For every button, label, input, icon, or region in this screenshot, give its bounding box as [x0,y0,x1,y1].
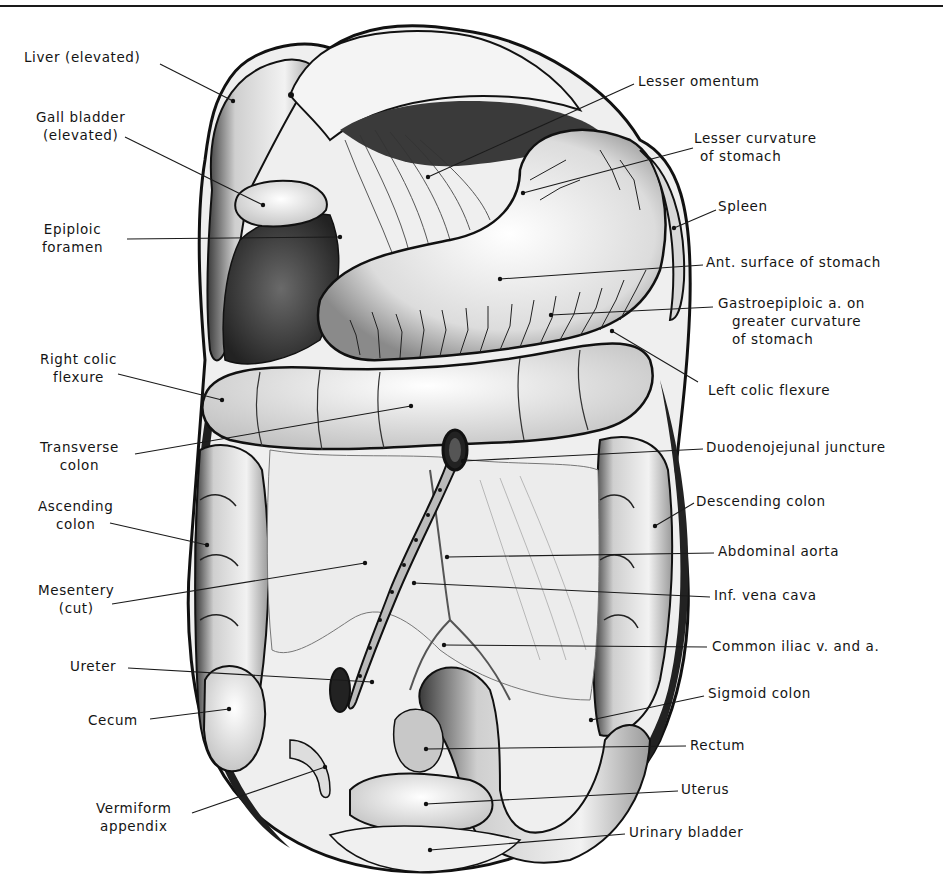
leader-dot-transverse-colon [409,404,413,408]
label-text: colon [40,456,119,474]
label-text: (cut) [38,599,114,617]
label-text: Right colic [40,350,117,368]
label-text: Cecum [88,712,138,728]
label-cecum: Cecum [88,711,138,729]
label-text: Lesser curvature [694,129,817,147]
leader-dot-inf-vena-cava [412,581,416,585]
label-left-colic-flexure: Left colic flexure [708,381,830,399]
label-text: Transverse [40,438,119,456]
leader-dot-right-colic-flexure [220,398,224,402]
label-text: Sigmoid colon [708,685,811,701]
label-text: appendix [96,817,172,835]
label-text: foramen [42,238,103,256]
leader-dot-cecum [227,707,231,711]
leader-dot-vermiform-appendix [323,765,327,769]
label-text: Urinary bladder [629,824,743,840]
label-ureter: Ureter [70,657,116,675]
label-epiploic-foramen: Epiploic foramen [42,220,103,256]
label-text: Duodenojejunal juncture [706,439,886,455]
label-text: Gall bladder [36,108,125,126]
label-rectum: Rectum [690,736,745,754]
label-text: flexure [40,368,117,386]
leader-dot-lesser-omentum [426,175,430,179]
label-gall-bladder: Gall bladder (elevated) [36,108,125,144]
label-right-colic-flexure: Right colic flexure [40,350,117,386]
label-text: Liver (elevated) [24,49,140,65]
leader-dot-mesentery [363,561,367,565]
label-lesser-curvature: Lesser curvature of stomach [694,129,817,165]
label-duodenojejunal-juncture: Duodenojejunal juncture [706,438,886,456]
leader-dot-abdominal-aorta [445,555,449,559]
label-text: Ascending [38,497,113,515]
leader-dot-spleen [672,226,676,230]
label-text: Uterus [681,781,729,797]
leader-dot-duodenojejunal-juncture [461,459,465,463]
label-text: colon [38,515,113,533]
label-uterus: Uterus [681,780,729,798]
leader-dot-liver [231,99,235,103]
label-liver: Liver (elevated) [24,48,140,66]
label-text: Descending colon [696,493,826,509]
label-text: Ant. surface of stomach [706,254,881,270]
label-text: greater curvature [718,312,865,330]
label-text: of stomach [718,330,865,348]
label-text: Inf. vena cava [714,587,817,603]
leader-dot-descending-colon [653,524,657,528]
label-sigmoid-colon: Sigmoid colon [708,684,811,702]
label-spleen: Spleen [718,197,768,215]
label-text: Mesentery [38,581,114,599]
leader-dot-gastroepiploic-artery [549,313,553,317]
label-lesser-omentum: Lesser omentum [638,72,759,90]
label-urinary-bladder: Urinary bladder [629,823,743,841]
label-text: Gastroepiploic a. on [718,294,865,312]
leader-dot-ureter [370,680,374,684]
label-text: of stomach [694,147,817,165]
label-text: Abdominal aorta [718,543,839,559]
label-mesentery: Mesentery (cut) [38,581,114,617]
leader-dot-ant-surface-stomach [498,277,502,281]
label-ascending-colon: Ascending colon [38,497,113,533]
leader-line-liver [160,64,233,101]
label-abdominal-aorta: Abdominal aorta [718,542,839,560]
leader-dot-epiploic-foramen [338,235,342,239]
leader-dot-ascending-colon [205,543,209,547]
label-text: Spleen [718,198,768,214]
label-ant-surface-stomach: Ant. surface of stomach [706,253,881,271]
leader-dot-sigmoid-colon [589,718,593,722]
label-text: Left colic flexure [708,382,830,398]
gall-bladder [235,181,327,226]
leader-dot-rectum [424,747,428,751]
leader-dot-left-colic-flexure [610,329,614,333]
label-text: (elevated) [36,126,125,144]
leader-dot-urinary-bladder [428,848,432,852]
leader-dot-common-iliac [442,643,446,647]
label-text: Common iliac v. and a. [712,638,879,654]
leader-dot-lesser-curvature [521,191,525,195]
label-gastroepiploic-artery: Gastroepiploic a. on greater curvature o… [718,294,865,348]
leader-dot-gall-bladder [261,203,265,207]
label-transverse-colon: Transverse colon [40,438,119,474]
label-text: Rectum [690,737,745,753]
label-common-iliac: Common iliac v. and a. [712,637,879,655]
label-inf-vena-cava: Inf. vena cava [714,586,817,604]
leader-dot-uterus [424,802,428,806]
label-vermiform-appendix: Vermiform appendix [96,799,172,835]
label-text: Vermiform [96,799,172,817]
label-descending-colon: Descending colon [696,492,826,510]
label-text: Ureter [70,658,116,674]
label-text: Lesser omentum [638,73,759,89]
label-text: Epiploic [42,220,103,238]
